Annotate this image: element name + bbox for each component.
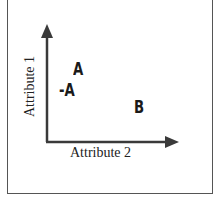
point-neg-a: -A: [59, 82, 75, 99]
point-b: B: [134, 99, 144, 116]
x-axis-arrow-icon: [165, 136, 179, 148]
point-a: A: [73, 61, 83, 78]
y-axis-arrow-icon: [41, 24, 53, 38]
y-axis-label: Attribute 1: [23, 56, 37, 117]
x-axis-label: Attribute 2: [70, 146, 131, 160]
